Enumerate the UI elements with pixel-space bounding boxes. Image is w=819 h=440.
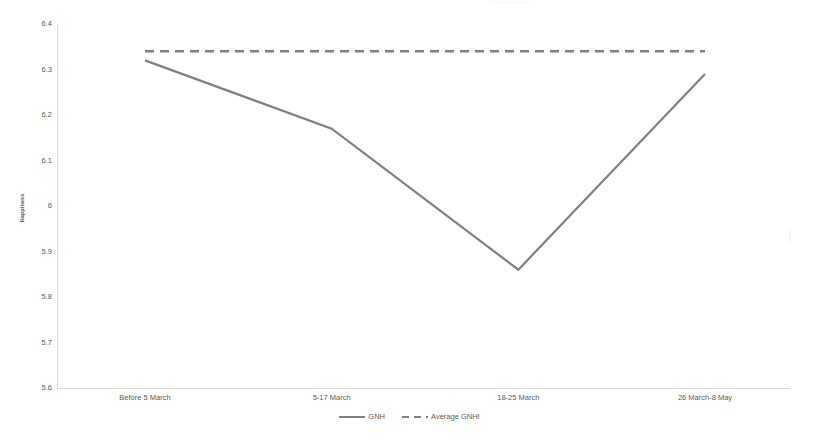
x-axis-line	[57, 388, 790, 389]
legend-entry[interactable]: Average GNHI	[402, 413, 480, 421]
y-tick-label: 6	[18, 202, 52, 210]
line-chart: Happiness 6.46.36.26.165.95.85.75.6 Befo…	[0, 0, 819, 440]
y-tick-label: 6.2	[18, 111, 52, 119]
y-tick-label: 6.4	[18, 20, 52, 28]
legend-swatch-dashed-icon	[402, 416, 428, 418]
legend-label: Average GNHI	[431, 413, 480, 421]
x-tick-label: 5-17 March	[313, 393, 351, 402]
y-tick-label: 6.1	[18, 157, 52, 165]
legend-label: GNH	[368, 413, 385, 421]
y-axis-tick-labels: 6.46.36.26.165.95.85.75.6	[18, 0, 52, 440]
legend-swatch-solid-icon	[339, 416, 365, 418]
legend-entry[interactable]: GNH	[339, 413, 385, 421]
series-layer	[57, 24, 790, 388]
y-tick-label: 5.9	[18, 248, 52, 256]
chart-legend: GNHAverage GNHI	[0, 413, 819, 421]
y-tick-label: 5.6	[18, 384, 52, 392]
x-tick-label: 26 March-8 May	[678, 393, 732, 402]
series-line-gnh	[145, 60, 705, 269]
scan-artifact-right	[789, 230, 791, 242]
y-tick-label: 6.3	[18, 66, 52, 74]
x-axis-tick-labels: Before 5 March5-17 March18-25 March26 Ma…	[57, 393, 790, 407]
y-tick-label: 5.7	[18, 339, 52, 347]
plot-area	[57, 24, 790, 388]
scan-artifact-top	[490, 1, 530, 4]
x-tick-label: Before 5 March	[119, 393, 170, 402]
y-tick-label: 5.8	[18, 293, 52, 301]
x-tick-label: 18-25 March	[497, 393, 539, 402]
